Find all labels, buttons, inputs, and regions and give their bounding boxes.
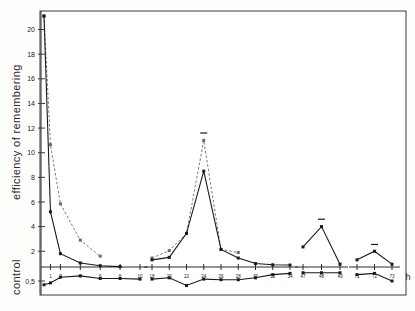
y-tick-label: 12 [27,125,35,132]
data-point-marker [43,15,46,18]
control-axis-label: control [10,259,22,295]
data-point-marker [59,276,62,279]
figure-container: 20181614121086420,5 12468101820222426283… [0,0,415,311]
data-point-marker [79,274,82,277]
data-point-marker [356,273,359,276]
data-point-marker [391,280,394,283]
data-point-marker [339,263,342,266]
x-tick-label: 47 [300,274,306,279]
data-point-marker [271,263,274,266]
data-point-marker [202,170,205,173]
x-tick-label: 48 [319,274,325,279]
x-axis-title: h [405,272,410,282]
data-point-marker [237,251,240,254]
x-tick-label: 22 [184,274,190,279]
y-axis-title: efficiency of remembering [10,64,22,200]
data-point-marker [43,283,46,286]
data-point-marker [168,276,171,279]
x-tick-label: 1 [49,274,52,279]
data-point-marker [202,278,205,281]
data-point-marker [237,257,240,260]
chart-svg: 20181614121086420,5 12468101820222426283… [0,0,415,311]
data-point-marker [373,250,376,253]
data-point-marker [79,239,82,242]
data-point-marker [139,278,142,281]
control-tick-label: 0,5 [25,278,35,285]
y-tick-label: 14 [27,100,35,107]
y-tick-label: 10 [27,149,35,156]
data-point-marker [339,271,342,274]
data-point-marker [79,261,82,264]
data-point-marker [302,245,305,248]
data-point-marker [302,271,305,274]
y-tick-label: 6 [31,199,35,206]
data-point-marker [289,264,292,267]
data-point-marker [151,278,154,281]
data-point-marker [99,277,102,280]
data-point-marker [99,264,102,267]
data-point-marker [59,252,62,255]
y-tick-label: 16 [27,75,35,82]
data-point-marker [320,271,323,274]
y-tick-label: 2 [31,248,35,255]
data-point-marker [168,249,171,252]
data-point-marker [391,263,394,266]
y-tick-label: 20 [27,26,35,33]
data-point-marker [49,210,52,213]
data-point-marker [220,278,223,281]
data-point-marker [289,272,292,275]
data-point-marker [356,258,359,261]
data-point-marker [185,232,188,235]
x-tick-label: 49 [337,274,343,279]
data-point-marker [202,139,205,142]
x-tick-label: 73 [389,274,395,279]
data-point-marker [254,276,257,279]
data-point-marker [119,265,122,268]
data-point-marker [151,258,154,261]
data-point-marker [168,256,171,259]
data-point-marker [99,255,102,258]
y-tick-label: 4 [31,223,35,230]
data-point-marker [237,278,240,281]
data-point-marker [220,248,223,251]
y-tick-label: 18 [27,51,35,58]
y-tick-label: 8 [31,174,35,181]
data-point-marker [119,277,122,280]
data-point-marker [59,202,62,205]
data-point-marker [320,225,323,228]
data-point-marker [254,262,257,265]
data-point-marker [49,143,52,146]
data-point-marker [185,284,188,287]
data-point-marker [271,273,274,276]
data-point-marker [49,281,52,284]
data-point-marker [373,272,376,275]
